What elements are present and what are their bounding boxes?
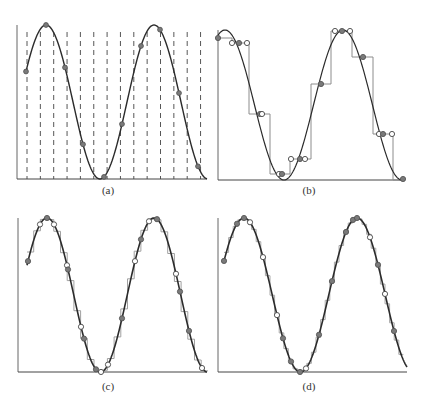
filled-sample-marker: [158, 27, 163, 32]
panel-c: [18, 215, 208, 374]
open-sample-marker: [302, 156, 307, 161]
filled-sample-marker: [318, 81, 323, 86]
filled-sample-marker: [280, 336, 285, 341]
filled-sample-marker: [102, 175, 107, 180]
open-sample-marker: [98, 369, 103, 374]
open-sample-marker: [105, 362, 110, 367]
filled-sample-marker: [241, 215, 246, 220]
filled-sample-marker: [380, 131, 385, 136]
filled-sample-marker: [25, 259, 30, 264]
open-sample-marker: [78, 324, 83, 329]
open-sample-marker: [244, 40, 249, 45]
open-sample-marker: [37, 222, 42, 227]
sine-curve: [27, 218, 207, 372]
filled-sample-marker: [375, 262, 380, 267]
sine-curve: [26, 25, 207, 179]
filled-sample-marker: [221, 258, 226, 263]
filled-sample-marker: [215, 35, 220, 40]
filled-sample-marker: [63, 65, 68, 70]
filled-sample-marker: [24, 69, 29, 74]
open-sample-marker: [146, 219, 151, 224]
open-sample-marker: [132, 259, 137, 264]
filled-sample-marker: [343, 229, 348, 234]
caption-d: (d): [303, 380, 316, 392]
filled-sample-marker: [391, 328, 396, 333]
filled-sample-marker: [354, 215, 359, 220]
filled-sample-marker: [339, 28, 344, 33]
figure-canvas: [0, 0, 427, 404]
panel-a: [17, 23, 207, 180]
open-sample-marker: [274, 313, 279, 318]
open-sample-marker: [247, 220, 252, 225]
sine-curve: [224, 218, 407, 372]
open-sample-marker: [229, 40, 234, 45]
caption-c: (c): [102, 380, 114, 392]
open-sample-marker: [199, 365, 204, 370]
filled-sample-marker: [329, 279, 334, 284]
filled-sample-marker: [297, 156, 302, 161]
open-sample-marker: [260, 255, 265, 260]
filled-sample-marker: [297, 369, 302, 374]
panel-b: [215, 28, 405, 181]
filled-sample-marker: [44, 23, 49, 28]
filled-sample-marker: [288, 359, 293, 364]
filled-sample-marker: [177, 91, 182, 96]
open-sample-marker: [347, 28, 352, 33]
open-sample-marker: [389, 131, 394, 136]
staircase-reconstruction: [224, 218, 403, 372]
filled-sample-marker: [119, 316, 124, 321]
filled-sample-marker: [139, 44, 144, 49]
filled-sample-marker: [154, 217, 159, 222]
staircase-reconstruction: [218, 31, 403, 180]
filled-sample-marker: [400, 176, 405, 181]
sample-points: [25, 215, 204, 374]
open-sample-marker: [259, 111, 264, 116]
filled-sample-marker: [316, 332, 321, 337]
open-sample-marker: [332, 28, 337, 33]
filled-sample-marker: [120, 122, 125, 127]
filled-sample-marker: [81, 336, 86, 341]
open-sample-marker: [303, 366, 308, 371]
caption-a: (a): [102, 184, 114, 196]
filled-sample-marker: [93, 367, 98, 372]
filled-sample-marker: [279, 171, 284, 176]
sample-points: [221, 215, 396, 374]
filled-sample-marker: [234, 221, 239, 226]
filled-sample-marker: [65, 267, 70, 272]
filled-sample-marker: [186, 328, 191, 333]
filled-sample-marker: [177, 289, 182, 294]
filled-sample-marker: [236, 40, 241, 45]
filled-sample-marker: [196, 164, 201, 169]
open-sample-marker: [382, 291, 387, 296]
filled-sample-marker: [360, 54, 365, 59]
panel-d: [218, 215, 407, 374]
sample-points: [24, 23, 201, 180]
caption-b: (b): [303, 184, 316, 196]
open-sample-marker: [288, 156, 293, 161]
open-sample-marker: [173, 271, 178, 276]
filled-sample-marker: [81, 142, 86, 147]
open-sample-marker: [367, 235, 372, 240]
open-sample-marker: [51, 222, 56, 227]
filled-sample-marker: [138, 237, 143, 242]
filled-sample-marker: [44, 215, 49, 220]
